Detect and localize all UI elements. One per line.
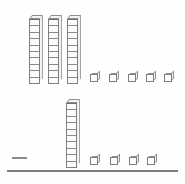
rod-segment	[67, 161, 76, 167]
rod-side-face	[77, 98, 80, 165]
rod-body	[66, 103, 77, 168]
rod-top-face	[66, 99, 77, 103]
unit-cube	[147, 156, 156, 165]
cube-front-face	[147, 157, 155, 165]
answer-input-area[interactable]	[7, 172, 178, 183]
base-ten-blocks-worksheet: 35	[0, 0, 185, 184]
unit-cube	[90, 156, 99, 165]
unit-cube	[129, 156, 138, 165]
tens-rod	[66, 99, 77, 168]
minus-sign-icon	[12, 157, 27, 159]
cube-front-face	[129, 157, 137, 165]
subtrahend-group: 14	[0, 0, 185, 184]
cube-front-face	[110, 157, 118, 165]
cube-front-face	[90, 157, 98, 165]
unit-cube	[110, 156, 119, 165]
